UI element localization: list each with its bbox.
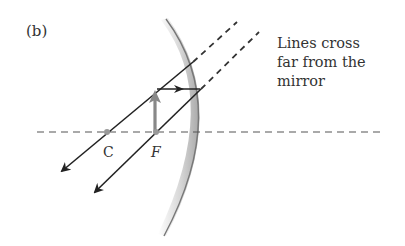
caption-line-3: mirror [277,72,402,91]
caption-line-1: Lines cross [277,34,402,53]
label-c: C [103,144,114,160]
label-f: F [150,144,162,160]
ray-through-f-extension [201,32,259,89]
point-c [104,129,110,135]
annotation-caption: Lines cross far from the mirror [277,34,402,91]
ray-through-c-extension [193,22,237,62]
panel-label: (b) [26,22,47,40]
point-f [153,129,159,135]
caption-line-2: far from the [277,53,402,72]
